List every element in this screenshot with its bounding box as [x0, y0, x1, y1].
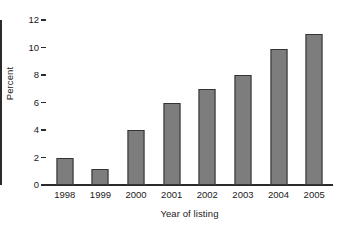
- bar-chart: Percent 024681012 1998199920002001200220…: [0, 0, 338, 234]
- y-axis-tick: [41, 19, 46, 20]
- bar-slot: [296, 20, 332, 185]
- bar-slot: [83, 20, 119, 185]
- x-axis-tick-label: 1998: [45, 190, 85, 200]
- bar: [199, 89, 216, 185]
- bar: [128, 130, 145, 185]
- bar: [163, 103, 180, 186]
- x-axis-title: Year of listing: [46, 208, 333, 219]
- bar: [92, 169, 109, 186]
- y-axis-tick-label: 2: [9, 153, 39, 163]
- x-axis-tick-label: 2005: [294, 190, 334, 200]
- bar: [270, 49, 287, 185]
- y-axis-tick: [41, 157, 46, 158]
- bar-slot: [190, 20, 226, 185]
- x-axis-tick-label: 2000: [116, 190, 156, 200]
- x-axis-tick-label: 2004: [259, 190, 299, 200]
- bar: [306, 34, 323, 185]
- y-axis-tick: [41, 129, 46, 130]
- bar-slot: [261, 20, 297, 185]
- bars-group: [47, 0, 332, 186]
- y-axis-tick-label: 0: [9, 180, 39, 190]
- y-axis-tick-label: 4: [9, 125, 39, 135]
- bar: [56, 158, 73, 186]
- bar-slot: [154, 20, 190, 185]
- y-axis-tick-label: 6: [9, 98, 39, 108]
- y-axis-tick: [41, 74, 46, 75]
- x-axis-tick-label: 1999: [80, 190, 120, 200]
- y-axis-tick-label: 8: [9, 70, 39, 80]
- y-axis-tick: [41, 47, 46, 48]
- x-axis-tick-label: 2001: [152, 190, 192, 200]
- y-axis-tick: [41, 184, 46, 185]
- y-axis-tick-label: 10: [9, 43, 39, 53]
- y-axis-line: [0, 20, 2, 185]
- bar-slot: [47, 20, 83, 185]
- bar-slot: [225, 20, 261, 185]
- bar-slot: [118, 20, 154, 185]
- y-axis-tick-label: 12: [9, 15, 39, 25]
- x-axis-tick-label: 2002: [187, 190, 227, 200]
- y-axis-tick: [41, 102, 46, 103]
- bar: [234, 75, 251, 185]
- x-axis-tick-label: 2003: [223, 190, 263, 200]
